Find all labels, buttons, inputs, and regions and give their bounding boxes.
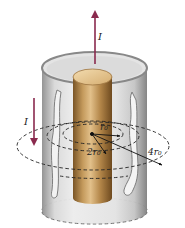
coaxial-cable-diagram: I I r₀ 2r₀ 4r₀: [0, 0, 185, 228]
label-radius-2r0: 2r₀: [86, 147, 101, 157]
label-radius-4r0: 4r₀: [147, 147, 162, 157]
label-radius-r0: r₀: [100, 122, 108, 132]
inner-conductor-rod: [73, 69, 112, 204]
label-current-down: I: [23, 116, 29, 127]
label-current-up: I: [97, 31, 103, 42]
